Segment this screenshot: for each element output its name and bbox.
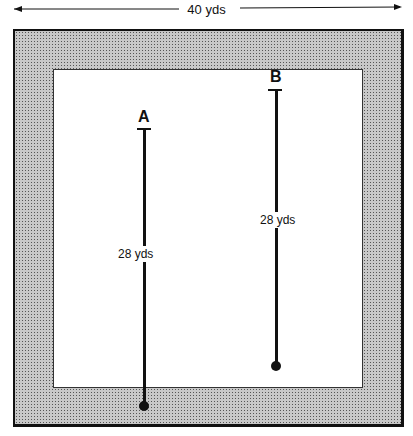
line-a bbox=[143, 128, 146, 406]
point-b-label: B bbox=[270, 68, 282, 86]
point-b-end-dot bbox=[271, 361, 281, 371]
point-a-label: A bbox=[138, 108, 150, 126]
inner-field bbox=[53, 69, 363, 388]
point-a-end-dot bbox=[139, 401, 149, 411]
line-a-distance: 28 yds bbox=[118, 246, 153, 262]
line-b-distance: 28 yds bbox=[260, 212, 295, 228]
width-label: 40 yds bbox=[0, 2, 413, 17]
